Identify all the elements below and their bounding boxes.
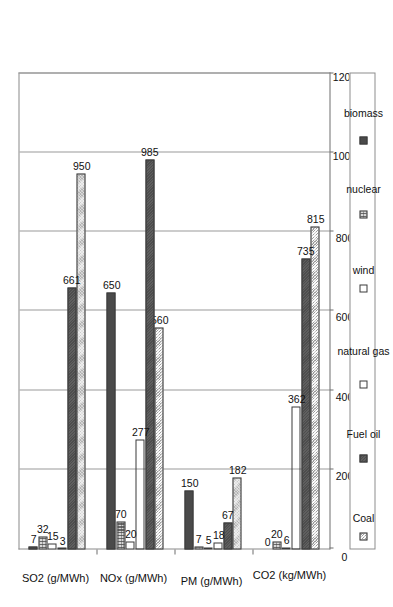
bar-value-label: 661 (66, 272, 77, 284)
bar-coal-1 (154, 327, 163, 549)
legend-label: wind (357, 258, 369, 280)
bar-wind-2 (203, 547, 212, 549)
bar-fuel-oil-0 (67, 287, 76, 549)
wind-swatch-icon (359, 284, 367, 292)
bar-value-label: 20 (125, 528, 136, 537)
bar-biomass-0 (28, 546, 37, 549)
axis-tick (329, 547, 333, 548)
gas-swatch-icon (359, 380, 367, 388)
coal-swatch-icon (359, 532, 367, 540)
bar-value-label: 560 (154, 312, 165, 324)
legend-item-coal[interactable]: Coal (350, 506, 376, 540)
chart-rotation-wrapper: 020040060080010001200 950661315327560985… (0, 0, 393, 607)
bar-value-label: 182 (232, 461, 243, 473)
bar-value-label: 70 (115, 509, 126, 518)
bar-value-label: 18 (213, 529, 224, 538)
axis-tick (329, 468, 333, 469)
category-tick (252, 549, 253, 554)
legend-item-natural-gas[interactable]: natural gas (350, 324, 376, 388)
chart-legend: CoalFuel oilnatural gaswindnuclearbiomas… (349, 72, 375, 549)
bar-chart-figure: 020040060080010001200 950661315327560985… (0, 0, 393, 607)
legend-label: biomass (357, 93, 369, 132)
gridline (19, 389, 329, 390)
axis-tick (329, 389, 333, 390)
bar-natural-gas-2 (213, 542, 222, 549)
bar-value-label: 150 (184, 474, 195, 486)
bar-coal-3 (310, 226, 319, 549)
bar-natural-gas-3 (291, 406, 300, 549)
gridline (19, 468, 329, 469)
bar-nuclear-1 (116, 521, 125, 549)
bar-wind-3 (281, 547, 290, 549)
bar-value-label: 277 (135, 424, 146, 436)
bar-value-label: 7 (193, 536, 204, 542)
legend-label: Coal (357, 506, 369, 528)
bar-nuclear-0 (38, 536, 47, 549)
legend-label: Fuel oil (357, 416, 369, 450)
bar-fuel-oil-1 (145, 159, 154, 549)
legend-item-nuclear[interactable]: nuclear (350, 172, 376, 218)
legend-item-wind[interactable]: wind (350, 258, 376, 292)
bar-value-label: 815 (310, 211, 321, 223)
bar-nuclear-2 (194, 546, 203, 549)
gridline (19, 151, 329, 152)
bar-coal-0 (76, 173, 85, 549)
bar-wind-1 (125, 541, 134, 549)
bar-value-label: 735 (300, 243, 311, 255)
bar-value-label: 20 (271, 528, 282, 537)
axis-tick (329, 310, 333, 311)
bar-value-label: 985 (144, 144, 155, 156)
plot-area (18, 72, 330, 549)
axis-tick (329, 230, 333, 231)
fueloil-swatch-icon (359, 454, 367, 462)
category-tick (96, 549, 97, 554)
bar-nuclear-3 (272, 541, 281, 549)
legend-item-fuel-oil[interactable]: Fuel oil (350, 416, 376, 462)
gridline (19, 230, 329, 231)
gridline (19, 72, 329, 73)
bar-value-label: 0 (262, 539, 273, 545)
bar-value-label: 7 (28, 536, 39, 542)
bar-biomass-1 (106, 292, 115, 549)
bar-value-label: 950 (76, 157, 87, 169)
bar-biomass-2 (184, 490, 193, 549)
legend-label: nuclear (357, 172, 369, 206)
biomass-swatch-icon (359, 136, 367, 144)
bar-value-label: 362 (291, 390, 302, 402)
bar-wind-0 (47, 543, 56, 549)
category-tick (174, 549, 175, 554)
legend-label: natural gas (357, 324, 369, 376)
bar-value-label: 650 (106, 276, 117, 288)
bar-value-label: 5 (203, 537, 214, 543)
bar-value-label: 67 (222, 510, 233, 519)
nuclear-swatch-icon (359, 210, 367, 218)
legend-item-biomass[interactable]: biomass (350, 93, 376, 144)
gridline (19, 310, 329, 311)
bar-value-label: 32 (37, 524, 48, 533)
